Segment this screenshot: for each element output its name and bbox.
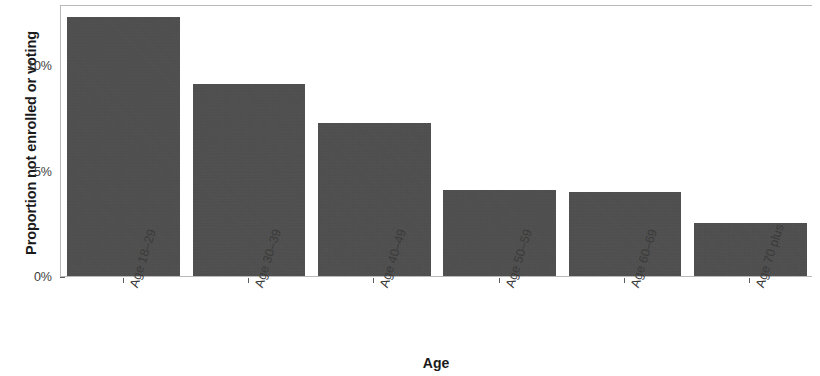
x-tick-mark — [749, 278, 750, 283]
y-tick-label: 10% — [8, 59, 52, 73]
bar — [67, 17, 180, 276]
y-axis-ticks: 0%5%10% — [6, 0, 52, 376]
x-tick-mark — [373, 278, 374, 283]
x-tick-mark — [123, 278, 124, 283]
y-tick-mark — [60, 277, 65, 278]
bar — [318, 123, 431, 276]
y-tick-label: 0% — [8, 270, 52, 284]
x-axis-title-text: Age — [423, 355, 449, 371]
x-tick-mark — [248, 278, 249, 283]
bar — [193, 84, 306, 276]
plot-panel — [60, 5, 812, 277]
bar — [443, 190, 556, 276]
bar-chart: Proportion not enrolled or voting 0%5%10… — [0, 0, 820, 376]
x-tick-mark — [499, 278, 500, 283]
x-axis-title: Age — [0, 355, 820, 371]
x-tick-mark — [624, 278, 625, 283]
bar — [569, 192, 682, 276]
bar — [694, 223, 807, 276]
y-tick-label: 5% — [8, 165, 52, 179]
